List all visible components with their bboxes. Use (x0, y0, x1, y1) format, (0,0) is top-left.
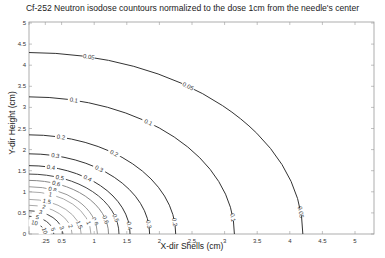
y-tick-label: 5 (23, 20, 27, 26)
x-tick-label: 4.5 (318, 238, 327, 244)
contour-label: 0.3 (145, 220, 153, 230)
y-tick-label: 1.5 (18, 168, 27, 174)
y-tick-label: 3 (23, 104, 27, 110)
y-tick-label: 0 (23, 231, 27, 237)
y-tick-label: 0.5 (18, 210, 27, 216)
y-tick-label: 1 (23, 189, 27, 195)
y-tick-label: 2.5 (18, 126, 27, 132)
plot-area: .250.511.522.533.544.5500.511.522.533.54… (0, 0, 385, 258)
x-tick-label: 1.5 (123, 238, 132, 244)
contour-label: 0.05 (182, 81, 196, 92)
axes-frame (29, 22, 374, 234)
y-tick-label: 4 (23, 62, 27, 68)
x-tick-label: 1 (93, 238, 97, 244)
x-tick-label: 4 (288, 238, 292, 244)
contour-label: 0.1 (229, 213, 237, 223)
x-tick-label: 2.5 (188, 238, 197, 244)
contour-label: 0.2 (171, 217, 178, 227)
y-tick-label: 2 (23, 147, 27, 153)
chart-figure: Cf-252 Neutron isodose countours normali… (0, 0, 385, 258)
y-tick-label: 4.5 (18, 41, 27, 47)
x-tick-label: 2 (158, 238, 162, 244)
x-tick-label: 3 (223, 238, 227, 244)
contour-line (29, 53, 303, 234)
x-tick-label: .25 (41, 238, 50, 244)
x-tick-label: 5 (353, 238, 357, 244)
x-tick-label: 0.5 (57, 238, 66, 244)
x-tick-label: 3.5 (253, 238, 262, 244)
contour-label: 0.4 (126, 221, 133, 231)
y-tick-label: 3.5 (18, 83, 27, 89)
contour-label: 0.05 (297, 206, 305, 219)
